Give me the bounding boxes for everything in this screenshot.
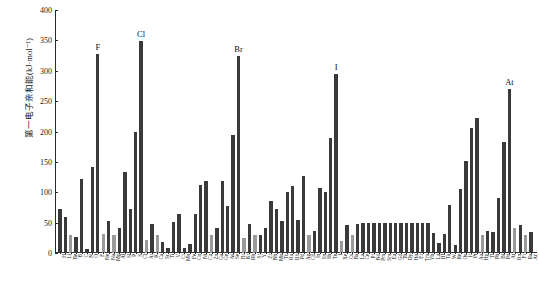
bar — [529, 232, 532, 253]
bar-series — [55, 10, 537, 253]
bar — [134, 132, 137, 254]
bar — [210, 235, 213, 253]
peak-label-i: I — [335, 62, 338, 72]
bar — [123, 172, 126, 253]
y-tick-label: 400 — [0, 6, 52, 15]
bar — [491, 232, 494, 253]
bar — [259, 235, 262, 253]
bar — [204, 181, 207, 253]
bar — [253, 235, 256, 253]
bar — [421, 223, 424, 253]
bar — [459, 189, 462, 253]
bar — [248, 224, 251, 253]
bar — [432, 233, 435, 253]
bar — [513, 228, 516, 253]
bar — [475, 118, 478, 253]
bar — [221, 181, 224, 253]
y-tick-mark — [55, 253, 58, 254]
bar — [361, 223, 364, 253]
bar — [242, 238, 245, 253]
bar — [378, 223, 381, 253]
y-tick-label: 0 — [0, 249, 52, 258]
bar — [324, 192, 327, 253]
bar — [275, 209, 278, 253]
bar — [69, 235, 72, 253]
peak-label-at: At — [505, 77, 514, 87]
bar — [351, 235, 354, 253]
bar — [280, 221, 283, 253]
bar — [426, 223, 429, 253]
y-tick-label: 100 — [0, 188, 52, 197]
bar — [231, 135, 234, 253]
bar — [107, 221, 110, 253]
bar — [269, 201, 272, 253]
bar — [383, 223, 386, 253]
bar — [96, 54, 99, 253]
bar — [464, 161, 467, 253]
bar — [58, 209, 61, 253]
bar — [486, 231, 489, 253]
bar — [313, 231, 316, 253]
bar — [329, 138, 332, 253]
peak-label-f: F — [95, 42, 100, 52]
bar — [102, 234, 105, 253]
peak-label-cl: Cl — [137, 29, 145, 39]
peak-label-br: Br — [234, 44, 243, 54]
bar — [264, 228, 267, 253]
bar — [519, 225, 522, 253]
x-tick-label: Ac — [533, 254, 538, 260]
bar — [199, 185, 202, 253]
bar — [448, 205, 451, 253]
y-tick-label: 200 — [0, 127, 52, 136]
electron-affinity-chart: 第一电子亲和能(kJ·mol⁻¹) 0501001502002503003504… — [0, 0, 539, 285]
bar — [318, 188, 321, 253]
bar — [215, 228, 218, 253]
bar — [470, 128, 473, 253]
bar — [112, 235, 115, 253]
bar — [129, 209, 132, 253]
bar — [399, 223, 402, 253]
bar — [502, 142, 505, 253]
bar — [226, 206, 229, 253]
y-tick-label: 50 — [0, 218, 52, 227]
bar — [416, 223, 419, 253]
y-tick-label: 300 — [0, 66, 52, 75]
bar — [118, 228, 121, 254]
y-tick-label: 150 — [0, 157, 52, 166]
bar — [405, 223, 408, 253]
bar — [302, 176, 305, 253]
bar — [139, 41, 142, 253]
bar — [177, 214, 180, 253]
bar — [172, 222, 175, 253]
bar — [372, 223, 375, 253]
bar — [367, 223, 370, 253]
bar — [291, 186, 294, 253]
bar — [524, 235, 527, 253]
bar — [334, 74, 337, 253]
y-tick-label: 350 — [0, 36, 52, 45]
bar — [307, 235, 310, 253]
bar — [145, 240, 148, 253]
bar — [296, 220, 299, 253]
bar — [91, 167, 94, 253]
bar — [194, 214, 197, 253]
bar — [389, 223, 392, 253]
bar — [156, 235, 159, 253]
bar — [497, 198, 500, 253]
y-axis-title: 第一电子亲和能(kJ·mol⁻¹) — [22, 8, 34, 168]
bar — [443, 234, 446, 253]
bar — [394, 223, 397, 253]
bar — [508, 89, 511, 253]
bar — [286, 192, 289, 253]
bar — [150, 224, 153, 253]
bar — [410, 223, 413, 253]
y-tick-label: 250 — [0, 97, 52, 106]
bar — [345, 225, 348, 253]
bar — [237, 56, 240, 253]
bar — [481, 235, 484, 253]
bar — [80, 179, 83, 253]
bar — [74, 237, 77, 253]
bar — [64, 217, 67, 253]
bar — [356, 224, 359, 253]
